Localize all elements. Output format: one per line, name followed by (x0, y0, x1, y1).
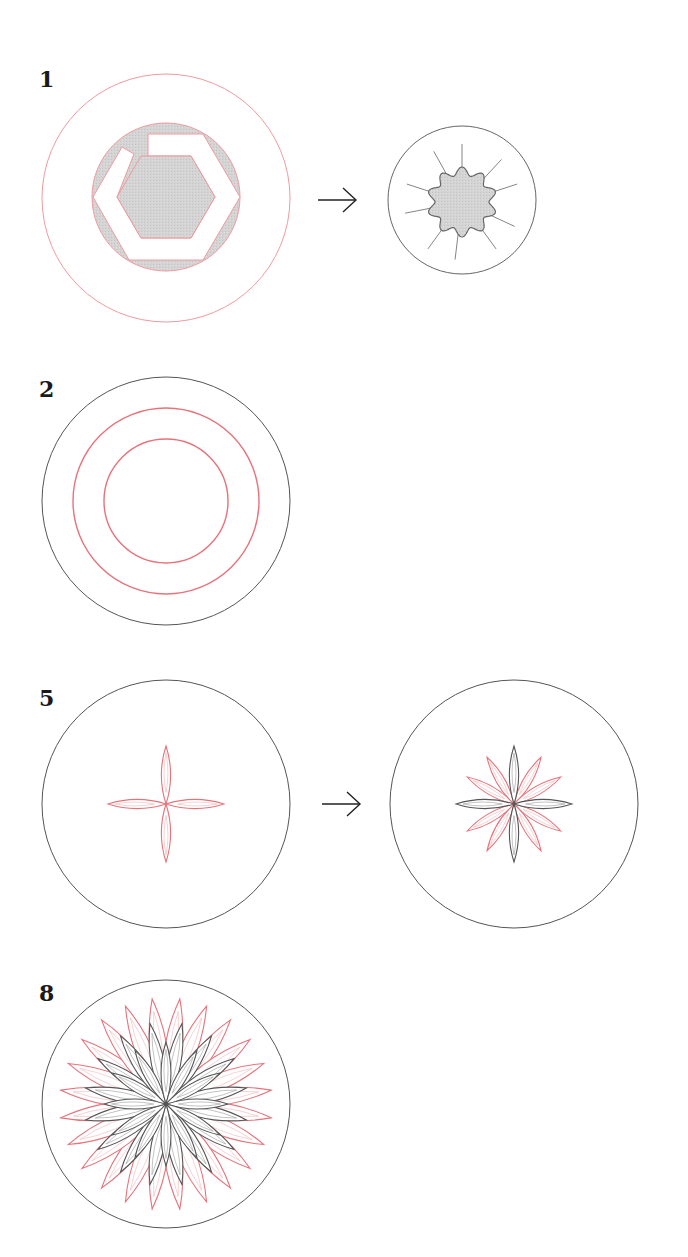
petal (161, 804, 170, 862)
arrow-icon (318, 188, 356, 212)
step-5-diagram (42, 680, 290, 928)
step-5-result (390, 680, 638, 928)
petal (166, 799, 224, 808)
step-2-diagram (42, 377, 290, 625)
petal (161, 746, 170, 804)
arrow-icon (322, 792, 360, 816)
diagram-canvas (0, 0, 688, 1257)
petal (108, 799, 166, 808)
step-1-result (388, 126, 536, 274)
step-8-diagram (42, 980, 290, 1228)
wavy-star-shape (429, 167, 496, 237)
ring-outer (73, 408, 259, 594)
step-1-diagram (42, 74, 290, 322)
ring-inner (104, 439, 228, 563)
